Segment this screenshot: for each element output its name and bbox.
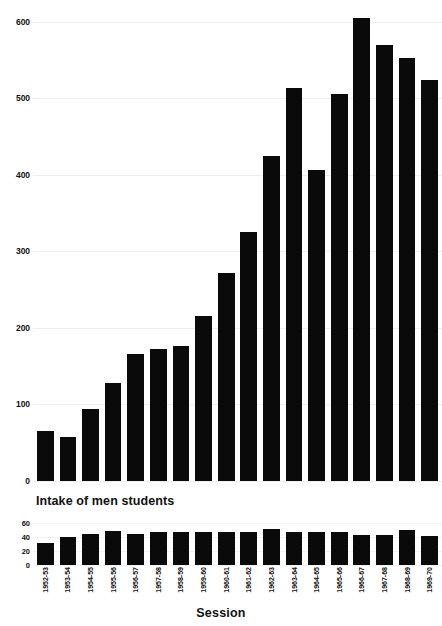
- bar-slot: [396, 519, 419, 565]
- bar-slot: [283, 519, 306, 565]
- main-bars: [33, 14, 442, 481]
- x-tick-slot: 1968-69: [396, 567, 419, 605]
- bar-slot: [79, 519, 102, 565]
- bar: [173, 346, 190, 482]
- bar: [286, 88, 303, 482]
- main-bar-chart: 0100200300400500600: [0, 0, 442, 492]
- y-tick-label: 20: [2, 547, 30, 556]
- bar: [173, 532, 190, 565]
- x-tick-slot: 1959-60: [192, 567, 215, 605]
- x-tick-label: 1965-66: [336, 567, 343, 593]
- bar: [37, 543, 54, 565]
- bar-slot: [147, 519, 170, 565]
- bar: [308, 170, 325, 481]
- x-tick-label: 1962-63: [268, 567, 275, 593]
- y-tick-label: 100: [2, 399, 30, 409]
- bar-slot: [305, 14, 328, 481]
- bar-slot: [283, 14, 306, 481]
- x-tick-label: 1954-55: [87, 567, 94, 593]
- bar-slot: [373, 519, 396, 565]
- x-tick-slot: 1957-58: [147, 567, 170, 605]
- x-tick-slot: 1955-56: [102, 567, 125, 605]
- bar-slot: [102, 519, 125, 565]
- bar-slot: [170, 519, 193, 565]
- bar-slot: [57, 14, 80, 481]
- bar: [353, 535, 370, 565]
- x-tick-slot: 1964-65: [305, 567, 328, 605]
- x-tick-slot: 1960-61: [215, 567, 238, 605]
- bar-slot: [215, 14, 238, 481]
- x-tick-slot: 1965-66: [328, 567, 351, 605]
- y-tick-label: 200: [2, 323, 30, 333]
- bar-slot: [147, 14, 170, 481]
- sub-bars: [33, 519, 442, 565]
- x-tick-label: 1966-67: [358, 567, 365, 593]
- bar-slot: [124, 14, 147, 481]
- sub-chart-title: Intake of men students: [36, 494, 174, 508]
- x-tick-label: 1955-56: [110, 567, 117, 593]
- bar: [127, 354, 144, 481]
- bar: [37, 431, 54, 481]
- x-axis-title: Session: [0, 606, 442, 620]
- bar: [399, 530, 416, 565]
- x-tick-label: 1958-59: [177, 567, 184, 593]
- x-tick-label: 1969-70: [426, 567, 433, 593]
- bar-slot: [237, 14, 260, 481]
- bar-slot: [170, 14, 193, 481]
- bar-slot: [328, 519, 351, 565]
- y-tick-label: 500: [2, 93, 30, 103]
- bar: [127, 534, 144, 565]
- bar-slot: [34, 14, 57, 481]
- bar: [421, 80, 438, 481]
- x-tick-slot: 1956-57: [124, 567, 147, 605]
- bar-slot: [351, 519, 374, 565]
- bar: [331, 532, 348, 565]
- x-tick-slot: 1967-68: [373, 567, 396, 605]
- main-y-axis: 0100200300400500600: [0, 14, 30, 481]
- x-tick-label: 1956-57: [132, 567, 139, 593]
- bar: [218, 532, 235, 565]
- bar: [60, 437, 77, 481]
- bar: [195, 532, 212, 565]
- x-tick-label: 1953-54: [64, 567, 71, 593]
- bar: [240, 232, 257, 481]
- x-tick-label: 1959-60: [200, 567, 207, 593]
- y-tick-label: 0: [2, 476, 30, 486]
- bar: [376, 535, 393, 565]
- bar: [150, 532, 167, 565]
- sub-plot-area: [33, 519, 442, 565]
- x-tick-slot: 1958-59: [170, 567, 193, 605]
- y-tick-label: 60: [2, 519, 30, 528]
- bar-slot: [260, 14, 283, 481]
- x-tick-label: 1961-62: [245, 567, 252, 593]
- bar-slot: [328, 14, 351, 481]
- bar-slot: [124, 519, 147, 565]
- bar: [82, 409, 99, 481]
- x-tick-label: 1968-69: [404, 567, 411, 593]
- bar: [60, 537, 77, 565]
- x-tick-slot: 1953-54: [57, 567, 80, 605]
- y-tick-label: 300: [2, 246, 30, 256]
- y-tick-label: 400: [2, 170, 30, 180]
- bar-slot: [351, 14, 374, 481]
- gridline: [33, 481, 442, 482]
- x-tick-slot: 1961-62: [237, 567, 260, 605]
- sub-bar-chart: Intake of men students 0204060 1952-5319…: [0, 492, 442, 626]
- x-tick-label: 1952-53: [42, 567, 49, 593]
- bar-slot: [34, 519, 57, 565]
- y-tick-label: 0: [2, 561, 30, 570]
- x-tick-label: 1960-61: [223, 567, 230, 593]
- bar-slot: [260, 519, 283, 565]
- bar: [353, 18, 370, 481]
- x-tick-slot: 1954-55: [79, 567, 102, 605]
- x-tick-slot: 1952-53: [34, 567, 57, 605]
- bar: [82, 534, 99, 565]
- x-axis-tick-labels: 1952-531953-541954-551955-561956-571957-…: [33, 567, 442, 605]
- bar-slot: [102, 14, 125, 481]
- x-tick-label: 1963-64: [291, 567, 298, 593]
- x-tick-label: 1964-65: [313, 567, 320, 593]
- bar: [263, 156, 280, 481]
- bar: [331, 94, 348, 481]
- x-tick-slot: 1969-70: [418, 567, 441, 605]
- bar: [376, 45, 393, 481]
